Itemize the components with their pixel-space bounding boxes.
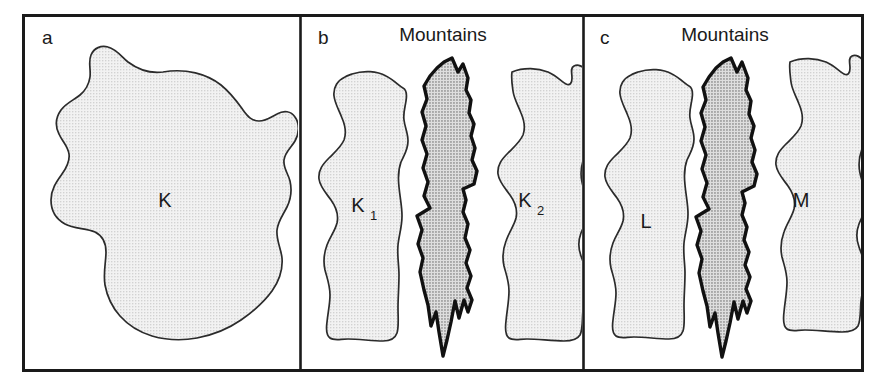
region-shape-barrier-b	[417, 58, 477, 356]
region-shape-l	[605, 70, 694, 339]
panel-a: a K	[42, 27, 298, 340]
region-shape-k	[51, 46, 298, 339]
region-label-k2-subscript: 2	[537, 203, 544, 218]
panel-c-title: Mountains	[681, 24, 769, 45]
panel-b: b Mountains K 1 K 2	[318, 24, 591, 356]
region-label-k: K	[158, 189, 172, 211]
figure-canvas: a K b Mountains K 1 K 2 c M	[0, 0, 883, 388]
panel-a-label: a	[42, 27, 53, 48]
panel-b-label: b	[318, 27, 329, 48]
panel-c: c Mountains L M	[600, 24, 869, 357]
region-label-l: L	[640, 210, 651, 232]
region-label-k1: K	[351, 194, 365, 216]
region-label-m: M	[793, 189, 810, 211]
region-shape-m	[776, 55, 869, 332]
panel-b-title: Mountains	[399, 24, 487, 45]
region-shape-barrier-c	[696, 58, 757, 357]
panel-c-label: c	[600, 27, 610, 48]
region-shape-k2	[498, 65, 591, 341]
region-label-k2: K	[518, 189, 532, 211]
figure-root: a K b Mountains K 1 K 2 c M	[0, 0, 883, 388]
region-label-k1-subscript: 1	[370, 208, 377, 223]
